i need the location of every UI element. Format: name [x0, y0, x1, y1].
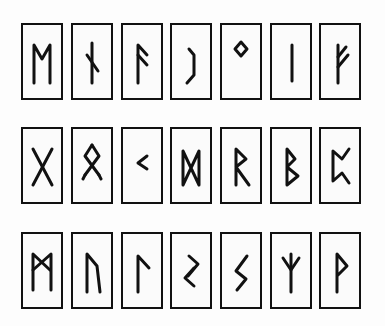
sowilo-rune-icon [222, 234, 260, 307]
rune-tile-ansuz: ᚨ [121, 23, 163, 100]
fehu-rune-icon [321, 25, 359, 98]
rune-tile-ingwaz: ᛜ [220, 23, 262, 100]
berkano-rune-icon [272, 129, 310, 202]
mannaz-dagaz-rune-icon [23, 234, 61, 307]
rune-tile-fehu: ᚠ [319, 23, 361, 100]
gebo-rune-icon [23, 129, 61, 202]
eihwaz-rune-icon [172, 25, 210, 98]
rune-tile-sowilo-variant: ᛊ [170, 232, 212, 309]
rune-tile-kenaz: ᚲ [121, 127, 163, 204]
rune-tile-nauthiz: ᚾ [71, 23, 113, 100]
rune-tile-berkano: ᛒ [270, 127, 312, 204]
rune-tile-algiz: ᛉ [270, 232, 312, 309]
rune-tile-laguz: ᛚ [121, 232, 163, 309]
rune-tile-perthro: ᛈ [319, 127, 361, 204]
ingwaz-rune-icon [222, 25, 260, 98]
rune-tile-raidho: ᚱ [220, 127, 262, 204]
rune-tile-sowilo: ᛊ [220, 232, 262, 309]
kenaz-rune-icon [123, 129, 161, 202]
rune-tile-wunjo: ᚹ [319, 232, 361, 309]
rune-tile-othala: ᛟ [71, 127, 113, 204]
ansuz-rune-icon [123, 25, 161, 98]
mannaz-rune-icon [23, 25, 61, 98]
rune-tile-uruz: ᚢ [71, 232, 113, 309]
rune-tile-grid: ᛗ ᚾ ᚨ ᛇ ᛜ ᛁ ᚠ [0, 0, 385, 326]
laguz-rune-icon [123, 234, 161, 307]
perthro-rune-icon [321, 129, 359, 202]
othala-rune-icon [73, 129, 111, 202]
nauthiz-rune-icon [73, 25, 111, 98]
rune-tile-ehwaz: ᛖ [21, 232, 63, 309]
uruz-rune-icon [73, 234, 111, 307]
rune-tile-mannaz: ᛗ [21, 23, 63, 100]
wunjo-rune-icon [321, 234, 359, 307]
rune-tile-eihwaz: ᛇ [170, 23, 212, 100]
rune-tile-gebo: ᚷ [21, 127, 63, 204]
dagaz-rune-icon [172, 129, 210, 202]
rune-tile-isa: ᛁ [270, 23, 312, 100]
sowilo-variant-rune-icon [172, 234, 210, 307]
rune-tile-dagaz: ᛞ [170, 127, 212, 204]
isa-rune-icon [272, 25, 310, 98]
raidho-rune-icon [222, 129, 260, 202]
algiz-rune-icon [272, 234, 310, 307]
